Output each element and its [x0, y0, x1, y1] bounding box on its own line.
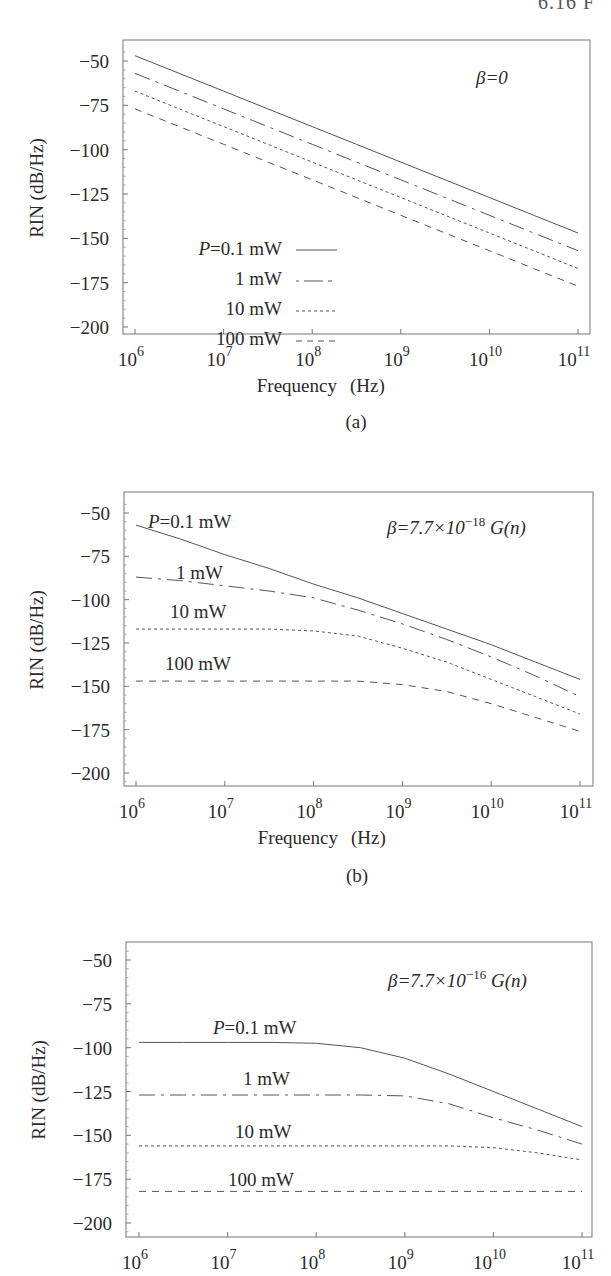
chart-panel-c: −50−75−100−125−150−175−200 1061071081091… — [0, 900, 611, 1276]
x-tick-label: 1010 — [473, 1247, 506, 1273]
x-axis: 10610710810910101011 — [118, 329, 590, 370]
y-tick-label: −50 — [82, 950, 112, 971]
y-axis-title: RIN (dB/Hz) — [26, 138, 48, 238]
y-tick-label: −75 — [82, 994, 112, 1015]
curve-dotted — [139, 1146, 582, 1160]
curve-label-1: 1 mW — [176, 562, 223, 583]
chart-b-svg: −50−75−100−125−150−175−200 1061071081091… — [0, 450, 611, 920]
curve-dashed — [136, 681, 580, 731]
x-tick-label: 106 — [118, 344, 144, 370]
curves — [139, 1042, 582, 1191]
x-tick-label: 1010 — [469, 344, 502, 370]
chart-a-svg: −50−75−100−125−150−175−200 1061071081091… — [0, 0, 611, 470]
legend-label-0: P=0.1 mW — [197, 238, 282, 259]
curve-solid — [135, 56, 578, 233]
y-tick-label: −175 — [71, 720, 110, 741]
y-tick-label: −125 — [70, 184, 109, 205]
curve-solid — [139, 1042, 582, 1126]
y-tick-label: −150 — [71, 676, 110, 697]
y-axis-title: RIN (dB/Hz) — [28, 1040, 50, 1140]
curve-dash-dot — [136, 577, 580, 697]
legend: P=0.1 mW 1 mW 10 mW 100 mW — [197, 238, 337, 349]
y-tick-label: −200 — [73, 1213, 112, 1234]
x-tick-label: 1010 — [471, 796, 504, 822]
curve-label-2: 10 mW — [170, 601, 227, 622]
beta-annotation: β=0 — [475, 67, 508, 88]
y-tick-label: −175 — [73, 1169, 112, 1190]
legend-label-1: 1 mW — [235, 268, 282, 289]
y-tick-label: −100 — [71, 590, 110, 611]
y-tick-label: −100 — [70, 140, 109, 161]
x-axis-title-unit: (Hz) — [350, 375, 385, 397]
y-tick-label: −75 — [79, 95, 109, 116]
curve-label-3: 100 mW — [165, 653, 231, 674]
y-axis: −50−75−100−125−150−175−200 — [73, 950, 131, 1234]
legend-label-2: 10 mW — [226, 298, 283, 319]
y-axis: −50−75−100−125−150−175−200 — [70, 51, 128, 338]
x-tick-label: 1011 — [558, 344, 590, 370]
chart-panel-a: −50−75−100−125−150−175−200 1061071081091… — [0, 0, 611, 470]
y-tick-label: −200 — [71, 763, 110, 784]
curve-label-0: P=0.1 mW — [212, 1017, 297, 1038]
plot-frame — [123, 40, 590, 334]
y-tick-label: −150 — [70, 228, 109, 249]
y-axis: −50−75−100−125−150−175−200 — [71, 503, 129, 784]
y-tick-label: −200 — [70, 317, 109, 338]
x-tick-label: 106 — [119, 796, 145, 822]
y-tick-label: −175 — [70, 273, 109, 294]
legend-label-3: 100 mW — [216, 328, 282, 349]
curve-label-1: 1 mW — [243, 1068, 290, 1089]
x-tick-label: 107 — [208, 796, 234, 822]
curves — [136, 525, 580, 731]
chart-c-svg: −50−75−100−125−150−175−200 1061071081091… — [0, 900, 611, 1276]
x-tick-label: 107 — [211, 1247, 237, 1273]
x-tick-label: 109 — [388, 1247, 414, 1273]
y-tick-label: −150 — [73, 1125, 112, 1146]
x-tick-label: 109 — [384, 344, 410, 370]
x-tick-label: 109 — [385, 796, 411, 822]
x-axis-title-freq: Frequency — [258, 827, 339, 848]
curve-dashed — [135, 109, 578, 286]
curve-dash-dot — [135, 73, 578, 250]
beta-annotation: β=7.7×10−18 G(n) — [386, 514, 526, 539]
y-tick-label: −125 — [73, 1082, 112, 1103]
y-axis-title: RIN (dB/Hz) — [26, 590, 48, 690]
curve-label-3: 100 mW — [228, 1169, 294, 1190]
panel-label: (b) — [346, 865, 368, 887]
x-tick-label: 1011 — [560, 796, 592, 822]
panel-label: (a) — [345, 411, 366, 433]
y-tick-label: −50 — [80, 503, 110, 524]
y-tick-label: −125 — [71, 633, 110, 654]
x-tick-label: 1011 — [562, 1247, 594, 1273]
curve-labels: P=0.1 mW 1 mW 10 mW 100 mW — [147, 511, 232, 674]
chart-panel-b: −50−75−100−125−150−175−200 1061071081091… — [0, 450, 611, 920]
x-axis-title-unit: (Hz) — [351, 827, 386, 849]
x-tick-label: 106 — [122, 1247, 148, 1273]
x-tick-label: 108 — [297, 796, 323, 822]
x-axis: 10610710810910101011 — [119, 781, 592, 822]
curve-label-2: 10 mW — [235, 1121, 292, 1142]
beta-annotation: β=7.7×10−16 G(n) — [387, 967, 527, 992]
x-axis: 10610710810910101011 — [122, 1232, 594, 1273]
x-axis-title-freq: Frequency — [257, 375, 338, 396]
y-tick-label: −100 — [73, 1038, 112, 1059]
y-tick-label: −75 — [80, 546, 110, 567]
x-tick-label: 108 — [299, 1247, 325, 1273]
x-tick-label: 108 — [295, 344, 321, 370]
curve-label-0: P=0.1 mW — [147, 511, 232, 532]
y-tick-label: −50 — [79, 51, 109, 72]
curve-dash-dot — [139, 1095, 582, 1144]
